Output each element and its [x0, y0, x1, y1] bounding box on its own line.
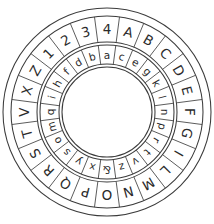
cell-glyph-F[interactable]: F: [182, 108, 198, 116]
cell-divider: [176, 99, 202, 102]
cell-glyph-m[interactable]: m: [44, 120, 58, 133]
cell-glyph-&[interactable]: &: [103, 164, 111, 176]
outer-edge-circle: [3, 8, 211, 216]
cell-glyph-T[interactable]: T: [18, 127, 36, 141]
cell-divider: [41, 103, 60, 105]
cell-glyph-G[interactable]: G: [178, 126, 196, 140]
cell-divider: [176, 121, 202, 124]
inner-ring-glyphs: egklnprtvz&xysomqihfdbac: [44, 49, 171, 176]
cell-glyph-x[interactable]: x: [88, 161, 97, 174]
cell-divider: [113, 160, 115, 179]
cell-glyph-D[interactable]: D: [169, 62, 188, 79]
cell-divider: [155, 103, 174, 105]
hub-circle: [62, 67, 152, 157]
cell-glyph-z[interactable]: z: [117, 161, 126, 174]
cell-glyph-Q[interactable]: Q: [57, 174, 74, 193]
cell-divider: [98, 160, 100, 179]
inner-ring-inner-circle: [59, 64, 155, 160]
cell-glyph-1[interactable]: 1: [40, 45, 57, 62]
cell-glyph-Z[interactable]: Z: [26, 62, 44, 78]
cell-glyph-B[interactable]: B: [140, 31, 156, 49]
cell-divider: [41, 118, 60, 120]
cell-divider: [98, 46, 100, 65]
cell-glyph-b[interactable]: b: [87, 50, 97, 63]
cell-glyph-a[interactable]: a: [104, 49, 110, 61]
cell-glyph-C[interactable]: C: [157, 44, 175, 62]
cell-glyph-k[interactable]: k: [150, 78, 164, 90]
cell-glyph-A[interactable]: A: [122, 23, 136, 41]
cell-glyph-S[interactable]: S: [26, 146, 44, 161]
cell-glyph-o[interactable]: o: [50, 135, 64, 147]
cell-glyph-M[interactable]: M: [139, 174, 157, 194]
cell-glyph-N[interactable]: N: [122, 183, 136, 201]
cell-divider: [94, 181, 97, 207]
inner-ring-dividers: [41, 46, 174, 179]
cell-divider: [94, 17, 97, 43]
cell-glyph-v[interactable]: v: [130, 155, 141, 169]
cell-glyph-c[interactable]: c: [118, 50, 127, 63]
cell-glyph-y[interactable]: y: [73, 155, 84, 169]
cell-divider: [113, 46, 115, 65]
cell-glyph-E[interactable]: E: [178, 84, 196, 96]
cell-glyph-V[interactable]: V: [16, 107, 32, 117]
cell-glyph-s[interactable]: s: [60, 146, 72, 158]
cell-glyph-3[interactable]: 3: [79, 23, 91, 41]
cell-glyph-g[interactable]: g: [141, 65, 154, 78]
cell-glyph-i[interactable]: i: [45, 94, 57, 100]
cell-glyph-O[interactable]: O: [102, 187, 113, 203]
cell-glyph-t[interactable]: t: [142, 147, 153, 158]
cell-glyph-p[interactable]: p: [156, 122, 169, 132]
cell-divider: [12, 121, 38, 124]
cipher-disk-figure: ABCDEFGILMNOPQRSTVXZ1234 egklnprtvz&xyso…: [0, 0, 214, 224]
cell-glyph-2[interactable]: 2: [58, 31, 73, 49]
cell-divider: [155, 118, 174, 120]
cell-glyph-n[interactable]: n: [159, 109, 171, 116]
cipher-disk-svg: ABCDEFGILMNOPQRSTVXZ1234 egklnprtvz&xyso…: [0, 0, 214, 224]
cell-glyph-q[interactable]: q: [44, 109, 56, 116]
cell-glyph-d[interactable]: d: [72, 55, 84, 69]
cell-glyph-L[interactable]: L: [157, 162, 174, 179]
cell-divider: [116, 181, 119, 207]
cell-glyph-r[interactable]: r: [150, 136, 163, 146]
cell-divider: [12, 99, 38, 102]
cell-divider: [116, 17, 119, 43]
cell-glyph-f[interactable]: f: [61, 66, 72, 77]
outer-ring-inner-circle: [37, 42, 177, 182]
cell-glyph-e[interactable]: e: [130, 55, 142, 69]
cell-glyph-X[interactable]: X: [18, 84, 36, 97]
cell-glyph-h[interactable]: h: [50, 77, 64, 89]
cell-glyph-I[interactable]: I: [171, 148, 187, 159]
cell-divider: [172, 139, 196, 149]
cell-glyph-4[interactable]: 4: [103, 21, 112, 37]
inner-ring-outer-circle: [40, 45, 174, 179]
cell-glyph-R[interactable]: R: [39, 162, 57, 180]
cell-glyph-P[interactable]: P: [80, 183, 92, 201]
disk-rings: [3, 8, 211, 216]
cell-glyph-l[interactable]: l: [156, 94, 168, 100]
